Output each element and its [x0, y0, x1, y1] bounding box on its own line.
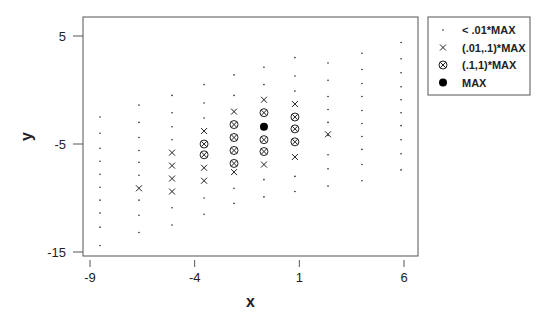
dot-marker: [361, 96, 363, 98]
cross-marker: [292, 154, 298, 160]
dot-marker: [327, 109, 329, 111]
dot-marker: [361, 164, 363, 166]
cross-marker: [169, 176, 175, 182]
y-tick-label: -15: [47, 245, 66, 260]
cross-marker: [201, 128, 207, 134]
dot-marker: [138, 175, 140, 177]
cross-marker: [169, 163, 175, 169]
x-tick-label: 6: [400, 270, 407, 285]
dot-marker: [138, 214, 140, 216]
circle-cross-marker: [230, 146, 238, 154]
dot-marker: [263, 67, 265, 69]
circle-cross-marker: [260, 109, 268, 117]
dot-marker: [171, 207, 173, 209]
circle-cross-marker: [291, 113, 299, 121]
circle-cross-marker: [260, 148, 268, 156]
dot-marker: [203, 102, 205, 104]
dot-marker: [171, 95, 173, 97]
dot-marker: [138, 150, 140, 152]
dot-marker: [327, 154, 329, 156]
dot-marker: [327, 79, 329, 81]
y-tick-label: 5: [59, 29, 66, 44]
circle-cross-marker: [260, 136, 268, 144]
dot-marker: [294, 176, 296, 178]
dot-marker: [203, 84, 205, 86]
dot-marker: [138, 122, 140, 124]
dot-marker: [171, 139, 173, 141]
dot-marker: [361, 110, 363, 112]
legend-label: < .01*MAX: [462, 24, 516, 36]
cross-marker: [292, 101, 298, 107]
dot-marker: [263, 84, 265, 86]
cross-marker: [261, 162, 267, 168]
dot-marker: [294, 75, 296, 77]
dot-marker: [99, 116, 101, 118]
cross-marker: [169, 150, 175, 156]
circle-cross-marker: [291, 125, 299, 133]
dot-marker: [400, 58, 402, 60]
dot-marker: [138, 162, 140, 164]
dot-marker: [361, 123, 363, 125]
dot-marker: [327, 96, 329, 98]
legend-label: (.1,1)*MAX: [462, 59, 517, 71]
dot-marker: [361, 52, 363, 54]
x-axis: -9-416: [84, 260, 407, 285]
dot-marker: [361, 149, 363, 151]
plot-frame: [83, 17, 418, 256]
dot-marker: [400, 112, 402, 114]
cross-marker: [201, 165, 207, 171]
dot-marker: [400, 99, 402, 101]
dot-marker: [99, 148, 101, 150]
dot-marker: [294, 57, 296, 59]
y-axis-label: y: [18, 132, 35, 141]
cross-marker: [169, 189, 175, 195]
dot-marker: [327, 122, 329, 124]
x-tick-label: -9: [84, 270, 96, 285]
dot-marker: [263, 179, 265, 181]
dot-marker: [400, 72, 402, 74]
circle-cross-marker: [291, 138, 299, 146]
dot-marker: [99, 226, 101, 228]
dot-marker: [361, 69, 363, 71]
dot-marker: [233, 74, 235, 76]
cross-marker: [325, 131, 331, 137]
cross-marker: [136, 185, 142, 191]
dot-marker: [99, 199, 101, 201]
data-points: [99, 42, 402, 247]
dot-marker: [99, 212, 101, 214]
dot-marker: [400, 42, 402, 44]
y-axis: 5-5-15: [47, 29, 83, 260]
circle-cross-marker: [230, 134, 238, 142]
dot-marker: [99, 186, 101, 188]
dot-marker: [400, 125, 402, 127]
dot-marker: [361, 136, 363, 138]
cross-marker: [201, 178, 207, 184]
dot-marker: [361, 180, 363, 182]
dot-marker: [233, 203, 235, 205]
circle-cross-marker: [230, 159, 238, 167]
dot-marker: [138, 199, 140, 201]
circle-cross-marker: [230, 121, 238, 129]
circle-cross-marker: [200, 151, 208, 159]
dot-marker: [138, 232, 140, 234]
circle-cross-marker: [200, 140, 208, 148]
dot-marker: [327, 62, 329, 64]
dot-marker: [400, 169, 402, 171]
dot-marker: [294, 90, 296, 92]
dot-marker: [99, 160, 101, 162]
cross-marker: [261, 97, 267, 103]
cross-marker: [231, 109, 237, 115]
filled-circle-marker: [439, 79, 447, 87]
dot-marker: [263, 196, 265, 198]
dot-marker: [400, 139, 402, 141]
dot-marker: [361, 83, 363, 85]
scatter-chart: -9-416 5-5-15 x y < .01*MAX(.01,.1)*MAX(…: [0, 0, 555, 324]
dot-marker: [138, 137, 140, 139]
dot-marker: [400, 153, 402, 155]
dot-marker: [99, 173, 101, 175]
dot-marker: [327, 185, 329, 187]
dot-marker: [233, 187, 235, 189]
legend-label: MAX: [462, 77, 487, 89]
dot-marker: [99, 245, 101, 247]
x-tick-label: 1: [296, 270, 303, 285]
